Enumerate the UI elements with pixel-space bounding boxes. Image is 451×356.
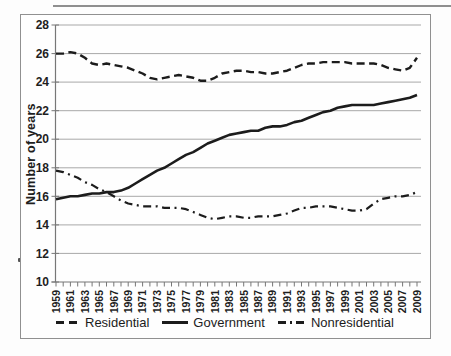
svg-text:24: 24 — [36, 75, 50, 89]
svg-text:2003: 2003 — [368, 290, 380, 314]
svg-text:28: 28 — [36, 18, 50, 32]
svg-text:1979: 1979 — [194, 290, 206, 314]
svg-text:2005: 2005 — [382, 290, 394, 314]
svg-text:1987: 1987 — [252, 290, 264, 314]
svg-text:14: 14 — [36, 218, 50, 232]
nonresidential-dashdot-line-icon — [278, 321, 306, 324]
svg-text:1965: 1965 — [93, 290, 105, 314]
svg-text:10: 10 — [36, 275, 50, 289]
chart-plot-area: 1012141618202224262819591961196319651967… — [0, 0, 451, 356]
svg-text:12: 12 — [36, 247, 50, 261]
legend: Residential Government Nonresidential — [20, 315, 430, 330]
svg-text:1993: 1993 — [295, 290, 307, 314]
svg-text:1973: 1973 — [151, 290, 163, 314]
legend-label-residential: Residential — [85, 315, 149, 330]
svg-text:26: 26 — [36, 47, 50, 61]
residential-dashed-line-icon — [56, 321, 80, 324]
svg-text:1969: 1969 — [122, 290, 134, 314]
legend-label-government: Government — [193, 315, 265, 330]
figure-canvas: 1012141618202224262819591961196319651967… — [0, 0, 451, 356]
svg-text:1997: 1997 — [324, 290, 336, 314]
svg-text:1961: 1961 — [64, 290, 76, 314]
government-solid-line-icon — [162, 321, 188, 324]
svg-text:1985: 1985 — [238, 290, 250, 314]
legend-item-nonresidential: Nonresidential — [278, 315, 394, 330]
svg-text:1959: 1959 — [50, 290, 62, 314]
svg-text:1967: 1967 — [108, 290, 120, 314]
svg-text:1981: 1981 — [209, 290, 221, 314]
svg-text:1963: 1963 — [79, 290, 91, 314]
svg-text:1999: 1999 — [339, 290, 351, 314]
svg-text:1995: 1995 — [310, 290, 322, 314]
svg-text:2001: 2001 — [353, 290, 365, 314]
legend-item-residential: Residential — [56, 315, 149, 330]
svg-text:2007: 2007 — [396, 290, 408, 314]
svg-text:1971: 1971 — [136, 290, 148, 314]
y-axis-title: Number of years — [24, 99, 38, 209]
svg-text:1991: 1991 — [281, 290, 293, 314]
svg-text:1983: 1983 — [223, 290, 235, 314]
svg-text:1989: 1989 — [266, 290, 278, 314]
legend-item-government: Government — [162, 315, 265, 330]
legend-label-nonresidential: Nonresidential — [311, 315, 394, 330]
svg-text:2009: 2009 — [411, 290, 423, 314]
svg-text:1977: 1977 — [180, 290, 192, 314]
svg-text:1975: 1975 — [165, 290, 177, 314]
